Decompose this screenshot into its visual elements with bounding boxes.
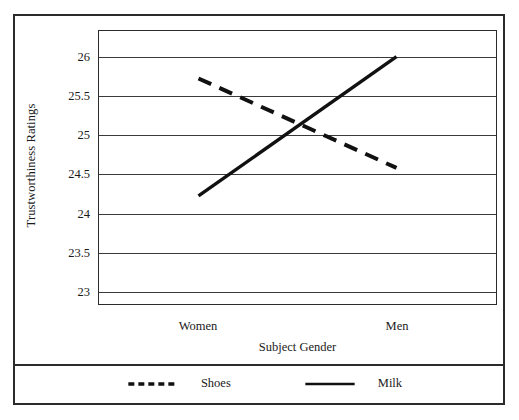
chart-legend: ShoesMilk	[15, 364, 503, 403]
y-tick-label: 23	[42, 284, 99, 299]
dashed-line-swatch	[116, 382, 190, 386]
legend-entry-shoes: Shoes	[116, 376, 231, 391]
series-line-milk	[198, 57, 396, 196]
legend-label: Shoes	[201, 376, 231, 391]
legend-label: Milk	[378, 376, 402, 391]
x-tick-label-men: Men	[386, 319, 409, 334]
y-tick-label: 25.5	[42, 89, 99, 104]
y-tick-label: 25	[42, 128, 99, 143]
series-group	[99, 31, 496, 304]
y-tick-label: 23.5	[42, 245, 99, 260]
y-tick-label: 26	[42, 49, 99, 64]
series-line-shoes	[198, 78, 396, 167]
figure-frame: Trustworthiness Ratings 2323.52424.52525…	[13, 14, 505, 405]
x-axis-title: Subject Gender	[98, 340, 497, 355]
plot-region: Trustworthiness Ratings 2323.52424.52525…	[15, 16, 503, 364]
y-axis-title: Trustworthiness Ratings	[24, 76, 39, 256]
y-tick-label: 24	[42, 206, 99, 221]
y-tick-label: 24.5	[42, 167, 99, 182]
solid-line-swatch	[293, 382, 367, 386]
legend-entry-milk: Milk	[293, 376, 402, 391]
x-tick-label-women: Women	[179, 319, 218, 334]
plot-area: 2323.52424.52525.526	[98, 30, 497, 305]
